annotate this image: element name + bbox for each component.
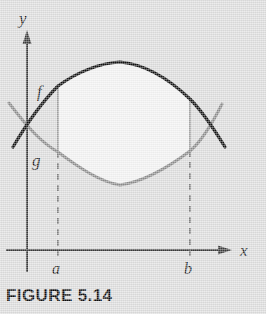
figure-container: y x f g a b FIGURE 5.14 xyxy=(0,0,266,314)
curve-label-f: f xyxy=(37,82,44,101)
y-axis-arrowhead xyxy=(23,30,32,44)
tick-label-a: a xyxy=(52,260,60,277)
curve-label-g: g xyxy=(32,151,41,170)
graph-plot: y x f g a b xyxy=(0,0,266,282)
y-axis-label: y xyxy=(17,9,27,28)
tick-label-b: b xyxy=(184,260,192,277)
x-axis-arrowhead xyxy=(218,246,232,255)
figure-caption: FIGURE 5.14 xyxy=(6,286,112,306)
x-axis-label: x xyxy=(239,241,248,260)
